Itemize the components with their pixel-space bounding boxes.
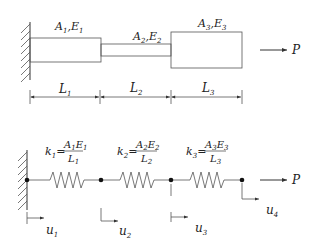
bar-spring-diagram: A1,E1 A2,E2 A3,E3 P L1 L2 L3 — [0, 0, 319, 245]
displacement-u2: u2 — [101, 208, 132, 240]
stiffness-formula-2: k2= A2E2 L2 — [117, 139, 160, 166]
displacement-u4: u4 — [242, 183, 278, 219]
node-3 — [169, 178, 174, 183]
svg-text:k2=: k2= — [117, 145, 137, 160]
bar-segment-1 — [30, 38, 101, 62]
svg-text:A3E3: A3E3 — [204, 139, 229, 152]
svg-text:u2: u2 — [119, 224, 132, 240]
displacement-u1: u1 — [27, 212, 58, 239]
node-2 — [99, 178, 104, 183]
fixed-wall-top — [21, 22, 30, 82]
length-2-label: L2 — [129, 81, 143, 97]
displacement-u3: u3 — [171, 184, 208, 237]
svg-text:A2E2: A2E2 — [135, 139, 160, 152]
svg-text:u4: u4 — [266, 203, 278, 219]
svg-text:u1: u1 — [46, 223, 58, 239]
length-3-label: L3 — [201, 81, 215, 97]
length-1-label: L1 — [58, 82, 71, 98]
load-arrow-top: P — [260, 43, 301, 57]
svg-text:L1: L1 — [67, 153, 79, 166]
svg-text:u3: u3 — [195, 221, 208, 237]
segment-2-label: A2,E2 — [132, 30, 162, 45]
svg-text:P: P — [291, 43, 301, 57]
svg-text:A1E1: A1E1 — [63, 139, 87, 152]
stiffness-formula-1: k1= A1E1 L1 — [45, 139, 87, 166]
spring-2 — [101, 172, 171, 188]
bar-segment-2 — [101, 44, 171, 56]
svg-text:L3: L3 — [209, 153, 222, 166]
segment-3-label: A3,E3 — [197, 17, 227, 32]
svg-text:L2: L2 — [140, 153, 153, 166]
node-4 — [240, 178, 245, 183]
bar-segment-3 — [171, 32, 242, 68]
svg-text:k1=: k1= — [45, 145, 65, 160]
load-arrow-bottom: P — [260, 173, 301, 187]
spring-1 — [27, 172, 101, 188]
spring-3 — [171, 172, 242, 188]
segment-1-label: A1,E1 — [54, 20, 83, 35]
svg-text:P: P — [291, 173, 301, 187]
node-1 — [25, 178, 30, 183]
stiffness-formula-3: k3= A3E3 L3 — [186, 139, 229, 166]
svg-text:k3=: k3= — [186, 145, 206, 160]
